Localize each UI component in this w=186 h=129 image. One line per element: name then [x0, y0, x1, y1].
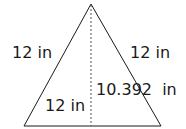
triangle-diagram	[0, 0, 186, 129]
right-side-label: 12 in	[130, 45, 170, 61]
height-label: 10.392 in	[96, 82, 177, 98]
base-half-label: 12 in	[45, 98, 85, 114]
left-side-label: 12 in	[12, 45, 52, 61]
